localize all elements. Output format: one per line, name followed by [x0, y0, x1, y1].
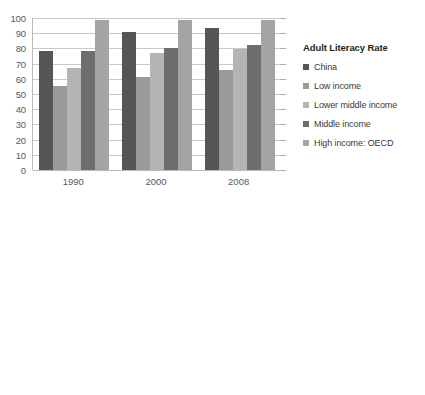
legend-item[interactable]: Low income [303, 81, 397, 91]
legend: Adult Literacy RateChinaLow incomeLower … [303, 42, 397, 157]
legend-item[interactable]: China [303, 62, 397, 72]
legend-item[interactable]: High income: OECD [303, 138, 397, 148]
x-axis-tick-label: 2008 [197, 176, 280, 187]
bar [261, 20, 275, 170]
plot-area [32, 18, 280, 170]
bar [205, 28, 219, 170]
legend-swatch-icon [303, 140, 309, 146]
axis-tick-mark [280, 48, 286, 49]
y-axis-tick-label: 50 [16, 90, 26, 99]
bar [136, 77, 150, 170]
legend-item-label: Low income [314, 81, 361, 91]
y-axis-tick-label: 10 [16, 150, 26, 159]
bar [150, 53, 164, 170]
y-axis-tick-label: 90 [16, 29, 26, 38]
bar [247, 45, 261, 170]
legend-item-label: High income: OECD [314, 138, 393, 148]
axis-tick-mark [280, 18, 286, 19]
bar-group [198, 18, 281, 170]
legend-item-label: Middle income [314, 119, 371, 129]
y-axis-tick-label: 20 [16, 135, 26, 144]
bar [81, 51, 95, 170]
y-axis-tick-label: 80 [16, 44, 26, 53]
bar [53, 86, 67, 170]
axis-tick-mark [280, 94, 286, 95]
legend-item[interactable]: Middle income [303, 119, 397, 129]
x-axis-tick-label: 2000 [115, 176, 198, 187]
axis-tick-mark [280, 109, 286, 110]
y-axis: 0102030405060708090100 [0, 18, 28, 170]
bar [233, 49, 247, 170]
axis-tick-mark [280, 124, 286, 125]
axis-tick-mark [280, 79, 286, 80]
axis-tick-mark [280, 155, 286, 156]
bar [95, 20, 109, 170]
y-axis-tick-label: 0 [21, 166, 26, 175]
adult-literacy-rate-chart: 0102030405060708090100199020002008Adult … [0, 0, 425, 200]
bar [178, 20, 192, 170]
axis-tick-mark [280, 140, 286, 141]
y-axis-tick-label: 40 [16, 105, 26, 114]
y-axis-tick-label: 60 [16, 74, 26, 83]
axis-tick-mark [280, 33, 286, 34]
bar [122, 32, 136, 170]
bar [39, 51, 53, 170]
bar-group [116, 18, 199, 170]
bar [67, 68, 81, 170]
legend-swatch-icon [303, 102, 309, 108]
legend-title: Adult Literacy Rate [303, 42, 397, 53]
legend-item-label: Lower middle income [314, 100, 397, 110]
x-axis-tick-label: 1990 [32, 176, 115, 187]
bar-group [33, 18, 116, 170]
life-expectancy-at-birth-chart [0, 200, 425, 395]
legend-swatch-icon [303, 121, 309, 127]
legend-swatch-icon [303, 64, 309, 70]
y-axis-tick-label: 100 [10, 14, 26, 23]
legend-item-label: China [314, 62, 337, 72]
bar [219, 70, 233, 170]
axis-tick-mark [280, 170, 286, 171]
y-axis-tick-label: 30 [16, 120, 26, 129]
y-axis-tick-label: 70 [16, 59, 26, 68]
axis-tick-mark [280, 64, 286, 65]
legend-item[interactable]: Lower middle income [303, 100, 397, 110]
legend-swatch-icon [303, 83, 309, 89]
bar [164, 48, 178, 170]
gridline [33, 170, 280, 171]
